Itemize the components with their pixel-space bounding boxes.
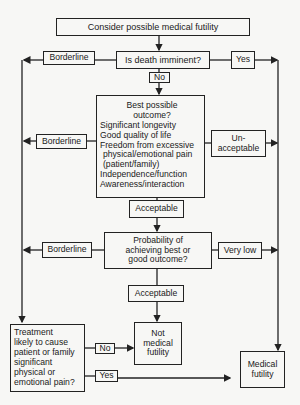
q1-text: Is death imminent? xyxy=(125,55,201,65)
not-medical-futility-box: Not medical futility xyxy=(134,322,182,365)
q1-yes-label: Yes xyxy=(231,51,255,69)
q4-no-label: No xyxy=(95,343,115,354)
q1-no-text: No xyxy=(154,73,165,83)
not-futility-line: futility xyxy=(143,348,173,358)
q2-borderline-text: Borderline xyxy=(42,137,81,147)
start-text: Consider possible medical futility xyxy=(88,22,219,32)
q1-no-label: No xyxy=(149,72,170,83)
q2-unacceptable-label: Un- acceptable xyxy=(211,130,266,157)
q4-treatment-pain-box: Treatment likely to cause patient or fam… xyxy=(10,324,85,392)
q4-no-text: No xyxy=(100,344,111,354)
q3-acceptable-label: Acceptable xyxy=(128,285,184,302)
q2-unacceptable-line: acceptable xyxy=(218,144,260,154)
q3-acceptable-text: Acceptable xyxy=(135,289,178,299)
q2-acceptable-label: Acceptable xyxy=(129,200,184,218)
q4-yes-label: Yes xyxy=(95,370,118,382)
q3-borderline-text: Borderline xyxy=(47,245,86,255)
q4-line: emotional pain? xyxy=(14,378,75,388)
q1-yes-text: Yes xyxy=(236,55,250,65)
q1-borderline-label: Borderline xyxy=(43,51,95,65)
q2-acceptable-text: Acceptable xyxy=(135,204,178,214)
q3-very-low-text: Very low xyxy=(224,246,256,256)
q2-line: Awareness/interaction xyxy=(100,180,204,190)
q3-probability-box: Probability of achieving best or good ou… xyxy=(104,232,212,269)
futility-line: futility xyxy=(248,370,278,380)
q4-yes-text: Yes xyxy=(99,371,113,381)
q3-borderline-label: Borderline xyxy=(42,242,92,258)
q2-best-outcome-box: Best possible outcome? Significant longe… xyxy=(96,95,205,198)
q1-death-imminent-box: Is death imminent? xyxy=(116,51,210,69)
medical-futility-box: Medical futility xyxy=(240,351,285,388)
q3-line: good outcome? xyxy=(126,255,191,265)
q2-borderline-label: Borderline xyxy=(36,134,87,149)
q3-very-low-label: Very low xyxy=(218,242,262,259)
start-box: Consider possible medical futility xyxy=(56,18,250,36)
q1-borderline-text: Borderline xyxy=(49,53,88,63)
